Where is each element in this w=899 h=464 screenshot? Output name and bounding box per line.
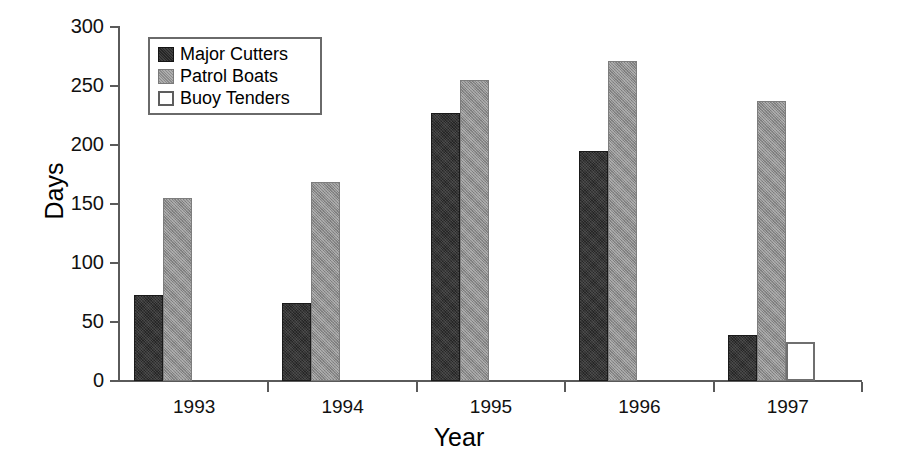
bar-1996-patrol-boats xyxy=(608,61,637,381)
bar-1993-major-cutters xyxy=(134,295,163,381)
bar-1995-major-cutters xyxy=(431,113,460,381)
chart-legend: Major Cutters Patrol Boats Buoy Tenders xyxy=(148,37,322,115)
y-axis-tick xyxy=(110,144,120,146)
x-axis-tick-label: 1995 xyxy=(441,396,541,418)
bar-1997-patrol-boats xyxy=(757,101,786,381)
x-axis-tick-label: 1996 xyxy=(589,396,689,418)
y-axis-tick-label: 200 xyxy=(30,134,104,154)
bar-1996-major-cutters xyxy=(579,151,608,381)
y-axis-tick-label: 50 xyxy=(30,311,104,331)
y-axis-tick xyxy=(110,85,120,87)
legend-swatch-icon-buoy-tenders xyxy=(158,91,174,106)
legend-swatch-icon-major-cutters xyxy=(158,47,174,62)
legend-item-patrol-boats: Patrol Boats xyxy=(158,65,314,87)
x-axis-tick-label: 1994 xyxy=(293,396,393,418)
y-axis-tick xyxy=(110,321,120,323)
y-axis-tick xyxy=(110,203,120,205)
bar-1995-patrol-boats xyxy=(460,80,489,381)
x-axis-tick-label: 1993 xyxy=(144,396,244,418)
x-axis-tick xyxy=(564,382,566,392)
y-axis-tick xyxy=(110,262,120,264)
legend-item-buoy-tenders: Buoy Tenders xyxy=(158,87,314,109)
x-axis-tick xyxy=(713,382,715,392)
bar-1997-major-cutters xyxy=(728,335,757,381)
x-axis-tick-label: 1997 xyxy=(738,396,838,418)
y-axis-tick-label: 100 xyxy=(30,252,104,272)
bar-1997-buoy-tenders xyxy=(786,342,815,381)
x-axis-tick xyxy=(416,382,418,392)
y-axis-tick-label: 300 xyxy=(30,16,104,36)
bar-1993-patrol-boats xyxy=(163,198,192,381)
y-axis-tick-label: 0 xyxy=(30,370,104,390)
x-axis-tick xyxy=(267,382,269,392)
y-axis-tick-label: 150 xyxy=(30,193,104,213)
bar-1994-major-cutters xyxy=(282,303,311,381)
legend-item-major-cutters: Major Cutters xyxy=(158,43,314,65)
legend-label-patrol-boats: Patrol Boats xyxy=(180,66,278,86)
legend-label-major-cutters: Major Cutters xyxy=(180,44,288,64)
x-axis-title: Year xyxy=(399,424,519,450)
legend-label-buoy-tenders: Buoy Tenders xyxy=(180,88,290,108)
bar-1994-patrol-boats xyxy=(311,182,340,381)
y-axis-tick-label: 250 xyxy=(30,75,104,95)
legend-swatch-icon-patrol-boats xyxy=(158,69,174,84)
y-axis-tick xyxy=(110,26,120,28)
x-axis-tick xyxy=(861,382,863,392)
bar-chart: Days 050100150200250300 1993199419951996… xyxy=(0,0,899,464)
